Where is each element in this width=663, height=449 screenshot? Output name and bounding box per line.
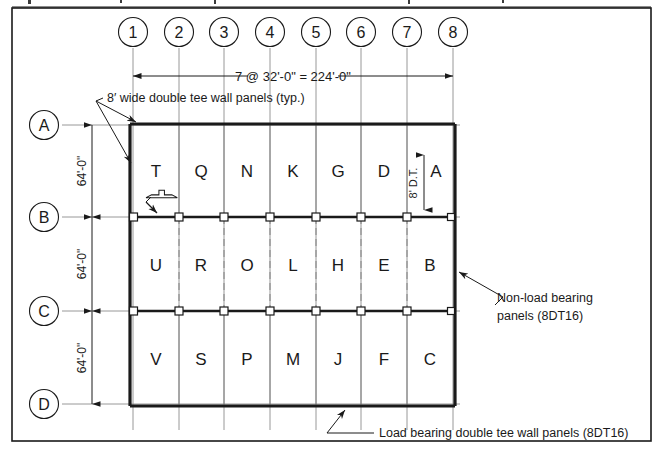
non-load-bearing-note: Non-load bearing panels (8DT16) <box>459 272 593 323</box>
bearing-marker <box>220 307 228 315</box>
panel-label: V <box>150 350 162 369</box>
bearing-marker <box>130 213 138 221</box>
grid-bubble-5[interactable]: 5 <box>302 18 331 47</box>
bearing-marker <box>312 307 320 315</box>
panel-label: N <box>241 162 253 181</box>
grid-bubble-label: 1 <box>129 24 138 41</box>
panel-label: S <box>195 350 206 369</box>
panel-label: J <box>334 350 343 369</box>
bearing-marker <box>175 213 183 221</box>
bearing-marker <box>448 214 455 221</box>
erection-plan-drawing: 1 2 3 4 5 6 7 <box>0 0 663 449</box>
bearing-marker <box>448 308 455 315</box>
grid-bubble-label: B <box>39 209 50 226</box>
row-grid-bubbles: A B C D <box>30 111 59 419</box>
grid-bubble-1[interactable]: 1 <box>119 18 148 47</box>
panel-labels-middle-row: U R O L H E B <box>150 256 436 275</box>
bearing-marker <box>357 307 365 315</box>
grid-bubble-3[interactable]: 3 <box>210 18 239 47</box>
bearing-marker <box>403 213 411 221</box>
bearing-marker <box>312 213 320 221</box>
grid-bubble-7[interactable]: 7 <box>393 18 422 47</box>
panel-label: B <box>424 256 435 275</box>
grid-bubble-label: 7 <box>403 24 412 41</box>
load-bearing-note-text: Load bearing double tee wall panels (8DT… <box>379 426 628 440</box>
grid-bubble-4[interactable]: 4 <box>256 18 285 47</box>
grid-bubble-label: 5 <box>312 24 321 41</box>
column-grid-lines <box>133 48 453 430</box>
panel-label: A <box>430 162 442 181</box>
panel-label: P <box>241 350 252 369</box>
panel-label: D <box>378 162 390 181</box>
vertical-dimension-string: 64'-0" 64'-0" 64'-0" <box>75 125 92 404</box>
column-grid-bubbles: 1 2 3 4 5 6 7 <box>119 18 468 47</box>
bearing-marker <box>357 213 365 221</box>
drawing-page: 1 2 3 4 5 6 7 <box>0 0 663 449</box>
non-load-bearing-note-line2: panels (8DT16) <box>497 309 583 323</box>
grid-bubble-label: D <box>38 396 50 413</box>
bearing-marker <box>220 213 228 221</box>
panel-label: K <box>287 162 299 181</box>
grid-bubble-2[interactable]: 2 <box>165 18 194 47</box>
panel-label: U <box>150 256 162 275</box>
non-load-bearing-note-line1: Non-load bearing <box>497 291 593 305</box>
double-tee-panel-note-text: 8′ wide double tee wall panels (typ.) <box>107 91 305 105</box>
grid-bubble-label: 3 <box>220 24 229 41</box>
grid-bubble-B[interactable]: B <box>30 203 59 232</box>
grid-bubble-A[interactable]: A <box>30 111 59 140</box>
panel-label: H <box>332 256 344 275</box>
row-grid-lines <box>62 125 460 404</box>
bearing-marker <box>403 307 411 315</box>
grid-bubble-C[interactable]: C <box>30 297 59 326</box>
panel-label: L <box>288 256 297 275</box>
panel-label: T <box>151 162 161 181</box>
grid-bubble-label: C <box>38 303 50 320</box>
panel-label: E <box>378 256 389 275</box>
bearing-marker <box>266 307 274 315</box>
panel-label: Q <box>194 162 207 181</box>
panel-width-dimension: 8' D.T. <box>407 155 424 210</box>
grid-bubble-label: 8 <box>449 24 458 41</box>
bay-dimension-2: 64'-0" <box>75 249 89 280</box>
panel-label: R <box>195 256 207 275</box>
panel-label: C <box>424 350 436 369</box>
bearing-marker <box>175 307 183 315</box>
load-bearing-note: Load bearing double tee wall panels (8DT… <box>327 410 628 440</box>
overall-horizontal-dimension: 7 @ 32'-0" = 224'-0" <box>133 69 453 84</box>
grid-bubble-label: A <box>39 117 50 134</box>
panel-labels-bottom-row: V S P M J F C <box>150 350 436 369</box>
bay-dimension-1: 64'-0" <box>75 156 89 187</box>
grid-bubble-label: 2 <box>175 24 184 41</box>
double-tee-panel-note: 8′ wide double tee wall panels (typ.) <box>96 91 305 163</box>
grid-bubble-D[interactable]: D <box>30 390 59 419</box>
grid-bubble-label: 4 <box>266 24 275 41</box>
bearing-marker <box>266 213 274 221</box>
bearing-marker <box>130 307 138 315</box>
clipped-caption-fragments <box>28 0 504 4</box>
panel-label: O <box>240 256 253 275</box>
grid-bubble-8[interactable]: 8 <box>439 18 468 47</box>
panel-label: G <box>331 162 344 181</box>
bay-dimension-3: 64'-0" <box>75 343 89 374</box>
panel-label: M <box>286 350 300 369</box>
pilaster-icon <box>146 190 177 197</box>
grid-bubble-label: 6 <box>357 24 366 41</box>
panel-labels-top-row: T Q N K G D A <box>151 162 443 181</box>
panel-label: F <box>379 350 389 369</box>
grid-bubble-6[interactable]: 6 <box>347 18 376 47</box>
column-symbol-callout <box>146 190 177 213</box>
panel-width-note: 8' D.T. <box>407 168 419 199</box>
overall-dimension-text: 7 @ 32'-0" = 224'-0" <box>235 69 351 84</box>
